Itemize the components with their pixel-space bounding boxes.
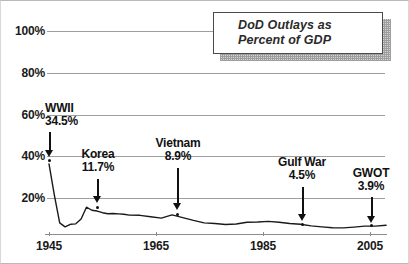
chart-title-line-2: Percent of GDP — [238, 33, 382, 48]
annotation-korea-value: 11.7% — [67, 161, 129, 174]
data-point-wwii — [48, 159, 51, 162]
annotation-gwot: GWOT 3.9% — [342, 167, 400, 193]
annotation-gwot-value: 3.9% — [342, 180, 400, 193]
annotation-vietnam-value: 8.9% — [143, 150, 213, 163]
annotation-vietnam: Vietnam 8.9% — [143, 137, 213, 163]
annotation-gulfwar: Gulf War 4.5% — [269, 156, 335, 182]
arrow-gulfwar — [298, 187, 307, 221]
data-point-gulfwar — [301, 223, 304, 226]
data-point-vietnam — [176, 213, 179, 216]
chart-title-line-1: DoD Outlays as — [238, 18, 382, 33]
annotation-wwii-value: 34.5% — [45, 115, 105, 128]
chart-frame: 100% 80% 60% 40% 20% 1945 1965 1985 2005… — [0, 0, 409, 264]
arrow-vietnam — [173, 168, 182, 210]
annotation-korea: Korea 11.7% — [67, 148, 129, 174]
annotation-gulfwar-value: 4.5% — [269, 169, 335, 182]
annotation-wwii: WWII 34.5% — [45, 102, 105, 128]
arrow-korea — [93, 179, 102, 203]
arrow-gwot — [367, 197, 376, 223]
data-point-korea — [96, 206, 99, 209]
arrow-wwii — [45, 132, 54, 157]
chart-title-box: DoD Outlays as Percent of GDP — [213, 12, 383, 54]
data-point-gwot — [370, 224, 373, 227]
